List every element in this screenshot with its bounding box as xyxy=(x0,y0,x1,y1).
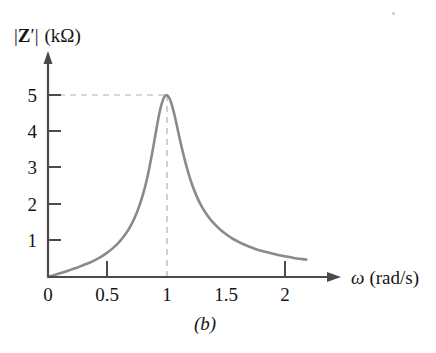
y-tick-label-2: 2 xyxy=(28,194,38,215)
x-axis-arrowhead-icon xyxy=(327,272,341,282)
x-axis-label: ω(rad/s) xyxy=(351,267,419,289)
x-tick-label-1: 1 xyxy=(162,284,172,305)
y-tick-label-5: 5 xyxy=(28,85,38,106)
y-tick-label-4: 4 xyxy=(28,121,38,142)
figure-container: |Z′|(kΩ) 5 4 3 2 1 0 0.5 1 1.5 2 xyxy=(0,0,436,353)
x-tick-label-1p5: 1.5 xyxy=(214,284,238,305)
impedance-curve xyxy=(48,95,306,277)
y-tick-label-1: 1 xyxy=(28,230,38,251)
x-tick-label-0p5: 0.5 xyxy=(95,284,119,305)
image-artifact-speck xyxy=(392,12,395,15)
y-tick-label-3: 3 xyxy=(28,157,38,178)
impedance-magnitude-plot: |Z′|(kΩ) 5 4 3 2 1 0 0.5 1 1.5 2 xyxy=(0,0,436,353)
figure-caption: (b) xyxy=(194,313,216,335)
y-axis-arrowhead-icon xyxy=(44,51,53,64)
x-tick-label-0: 0 xyxy=(43,284,53,305)
y-axis-label: |Z′|(kΩ) xyxy=(14,25,81,47)
x-tick-label-2: 2 xyxy=(280,284,290,305)
